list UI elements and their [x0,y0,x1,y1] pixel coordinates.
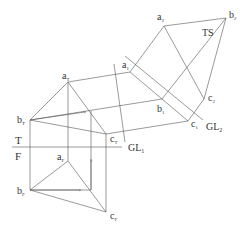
label-c-aux1: c1 [191,118,198,130]
arrow-true-length [30,112,85,120]
label-true-shape: TS [202,27,214,38]
projector-a-aux2 [130,26,164,72]
projector-b-aux2 [162,18,226,99]
projector-a-aux1 [68,72,130,82]
label-gl1: GL1 [128,142,144,154]
label-b-front: bF [17,185,25,197]
label-b-top: bT [17,114,25,126]
label-front-plane: F [15,150,21,162]
diagram-canvas: T F GL1 GL2 TS aT bT cT aF bF cF a1 b1 c… [0,0,251,226]
label-top-plane: T [15,134,22,146]
triangle-front-view [30,161,106,212]
label-b-aux2: b2 [229,9,237,21]
label-a-top: aT [62,70,70,82]
label-c-top: cT [110,133,118,145]
projector-c-aux1 [106,121,188,134]
label-b-aux1: b1 [157,103,165,115]
label-a-aux1: a1 [122,59,129,71]
label-c-aux2: c2 [208,92,215,104]
reference-line-aux1 [114,64,125,142]
label-a-aux2: a2 [157,11,164,23]
auxiliary-view-diagram: T F GL1 GL2 TS aT bT cT aF bF cF a1 b1 c… [0,0,251,226]
label-a-front: aF [57,151,64,163]
label-gl2: GL2 [206,121,222,133]
label-c-front: cF [110,210,117,222]
